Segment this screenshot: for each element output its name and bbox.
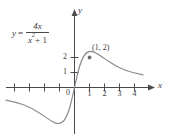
max-point-label: (1, 2)	[92, 44, 109, 52]
equation-label: y = 4x x2+ 1	[12, 22, 49, 45]
x-tick-label-3: 3	[118, 90, 122, 98]
function-plot	[0, 0, 169, 139]
denominator-exponent: 2	[32, 32, 35, 38]
x-tick-label-2: 2	[103, 90, 107, 98]
y-axis	[72, 9, 78, 134]
y-axis-name-label: y	[78, 6, 82, 15]
denominator-rest: + 1	[35, 35, 47, 45]
y-tick-label-2: 2	[63, 53, 67, 61]
equation-equals-sign: =	[18, 29, 23, 38]
x-axis-name-label: x	[158, 81, 162, 90]
x-tick-label-4: 4	[133, 90, 137, 98]
equation-numerator: 4x	[31, 22, 44, 31]
figure-container: y = 4x x2+ 1 (1, 2) x y 0 1 2 3 4 1 2	[0, 0, 169, 139]
origin-label: 0	[66, 89, 70, 97]
x-tick-label-1: 1	[88, 90, 92, 98]
max-point-marker	[88, 56, 92, 60]
equation-fraction: 4x x2+ 1	[26, 22, 49, 45]
fraction-bar-icon	[26, 32, 49, 33]
y-tick-label-1: 1	[63, 68, 67, 76]
equation-denominator: x2+ 1	[26, 34, 49, 45]
equation-lhs: y	[12, 29, 16, 38]
